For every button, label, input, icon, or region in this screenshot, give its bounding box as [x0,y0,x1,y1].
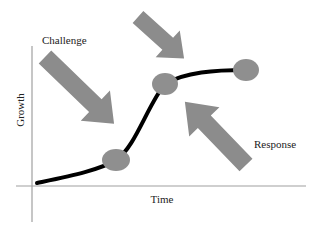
node-high [233,59,259,81]
response-label: Response [254,138,296,150]
growth-diagram: Growth Time Challenge Response [0,0,324,233]
challenge-arrow-icon [30,42,128,139]
node-mid [152,73,178,95]
response-arrow-icon [170,87,261,179]
y-axis-label: Growth [14,93,26,127]
x-axis-label: Time [151,193,174,205]
top-arrow-icon [126,4,196,72]
challenge-label: Challenge [42,34,87,46]
node-low [102,149,130,171]
